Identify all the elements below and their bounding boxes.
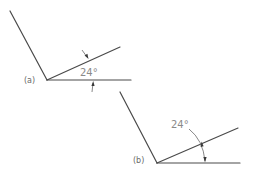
panel-a-angle-label: 24° — [80, 67, 98, 78]
panel-b: 24° (b) — [120, 92, 240, 165]
panel-a-top-arrow-icon — [82, 50, 89, 59]
panel-a-steep-line — [10, 11, 47, 80]
panel-b-angle-label: 24° — [171, 119, 189, 130]
panel-a: 24° (a) — [10, 11, 131, 92]
panel-b-steep-line — [120, 92, 157, 163]
panel-b-angled-line — [157, 128, 238, 163]
panel-a-label: (a) — [24, 76, 35, 85]
panel-b-label: (b) — [133, 156, 144, 165]
angle-dimension-diagram: 24° (a) 24° (b) — [0, 0, 258, 173]
panel-a-bottom-arrow-icon — [91, 81, 94, 92]
